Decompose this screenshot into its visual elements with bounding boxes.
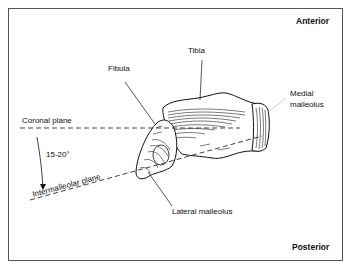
lateral-malleolus-label: Lateral malleolus: [172, 207, 232, 217]
fibula-label: Fibula: [108, 64, 130, 74]
medial-malleolus-label-line1: Medial: [290, 89, 314, 99]
medial-malleolus-leader: [268, 98, 286, 112]
medial-malleolus-label-line2: malleolus: [290, 100, 324, 110]
posterior-label: Posterior: [292, 242, 329, 252]
angle-label: 15-20°: [46, 150, 70, 160]
coronal-plane-label: Coronal plane: [22, 116, 72, 126]
fibula-leader: [125, 82, 155, 124]
anterior-label: Anterior: [296, 16, 329, 26]
ankle-cross-section-illustration: [0, 0, 348, 271]
tibia-leader: [200, 60, 202, 100]
angle-arrow: [37, 137, 43, 188]
lateral-malleolus-leader: [148, 172, 172, 206]
fibula-shape: [136, 120, 177, 179]
tibia-label: Tibia: [188, 46, 205, 56]
